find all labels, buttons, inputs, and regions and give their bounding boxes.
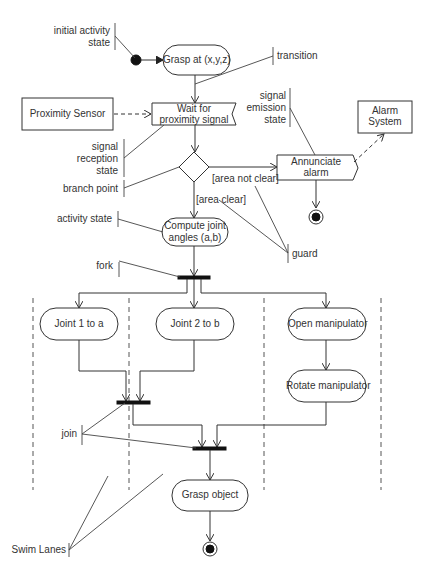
annot-reception-3: state xyxy=(60,165,118,177)
annot-initial-2: state xyxy=(40,37,110,49)
grasp-object-label: Grasp object xyxy=(172,489,248,501)
annunciate-label-2: alarm xyxy=(277,167,355,179)
annot-emission-1: signal xyxy=(240,90,286,102)
annot-reception-1: signal xyxy=(60,141,118,153)
wait-for-label-2: proximity signal xyxy=(152,114,236,126)
join-bar-1 xyxy=(117,401,150,404)
guard-area-not-clear: [area not clear] xyxy=(212,173,279,185)
annot-swim-lanes: Swim Lanes xyxy=(0,544,66,556)
alarm-system-label-2: System xyxy=(358,116,412,128)
rotate-manipulator-label: Rotate manipulator xyxy=(286,380,368,392)
compute-label-2: angles (a,b) xyxy=(162,232,228,244)
annot-transition: transition xyxy=(277,50,318,62)
annot-initial-1: initial activity xyxy=(40,25,110,37)
annot-guard: guard xyxy=(292,248,318,260)
annot-fork: fork xyxy=(60,260,113,272)
open-manipulator-label: Open manipulator xyxy=(288,318,366,330)
annot-join: join xyxy=(40,428,77,440)
annot-branch-point: branch point xyxy=(40,183,118,195)
annot-emission-3: state xyxy=(240,114,286,126)
joint2-label: Joint 2 to b xyxy=(156,318,234,330)
joint1-label: Joint 1 to a xyxy=(40,318,118,330)
join-bar-2 xyxy=(193,447,226,450)
proximity-sensor-label: Proximity Sensor xyxy=(22,108,113,120)
compute-label-1: Compute joint xyxy=(162,220,228,232)
branch-diamond xyxy=(179,152,209,182)
guard-area-clear: [area clear] xyxy=(196,194,246,206)
annot-reception-2: reception xyxy=(60,153,118,165)
fork-bar xyxy=(178,276,210,279)
annot-emission-2: emission xyxy=(240,102,286,114)
initial-state xyxy=(131,55,141,65)
grasp-at-label: Grasp at (x,y,z) xyxy=(163,54,230,66)
annot-activity-state: activity state xyxy=(40,213,112,225)
